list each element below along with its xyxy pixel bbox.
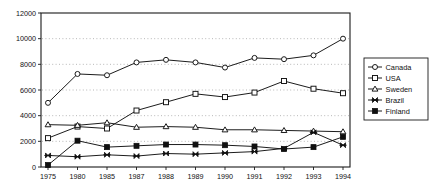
data-point-marker (252, 144, 257, 149)
legend-label: Canada (386, 63, 413, 72)
legend-label: USA (386, 74, 401, 83)
data-point-marker (373, 109, 378, 114)
x-tick-label: 1994 (335, 172, 351, 181)
data-point-marker (105, 145, 110, 150)
data-point-marker (341, 36, 346, 41)
y-tick-label: 12000 (16, 9, 36, 18)
chart-legend: CanadaUSASwedenBrazilFinland (364, 58, 428, 120)
data-point-marker (223, 95, 228, 100)
data-point-marker (223, 143, 228, 148)
data-point-marker (311, 145, 316, 150)
x-tick-label: 1992 (276, 172, 292, 181)
data-point-marker (134, 108, 139, 113)
line-chart-canvas: 020004000600080001000012000 197519801985… (0, 0, 436, 193)
legend-label: Finland (386, 107, 410, 116)
x-tick-label: 1988 (158, 172, 174, 181)
x-tick-label: 1990 (217, 172, 233, 181)
data-point-marker (164, 142, 169, 147)
data-point-marker (46, 136, 51, 141)
data-point-marker (193, 60, 198, 65)
data-point-marker (373, 76, 378, 81)
data-point-marker (164, 100, 169, 105)
data-point-marker (282, 57, 287, 62)
data-point-marker (311, 86, 316, 91)
data-point-marker (105, 73, 110, 78)
data-point-marker (134, 60, 139, 65)
data-point-marker (75, 138, 80, 143)
legend-label: Sweden (386, 85, 413, 94)
y-tick-label: 10000 (16, 34, 36, 43)
x-tick-label: 1980 (70, 172, 86, 181)
y-tick-label: 8000 (20, 60, 36, 69)
data-point-marker (311, 53, 316, 58)
data-point-marker (252, 55, 257, 60)
x-tick-label: 1975 (40, 172, 56, 181)
data-point-marker (282, 147, 287, 152)
data-point-marker (193, 142, 198, 147)
data-point-marker (373, 65, 378, 70)
data-point-marker (75, 71, 80, 76)
data-point-marker (134, 143, 139, 148)
legend-label: Brazil (386, 96, 405, 105)
data-point-marker (282, 79, 287, 84)
data-point-marker (223, 65, 228, 70)
data-point-marker (193, 91, 198, 96)
y-tick-label: 0 (32, 163, 36, 172)
data-point-marker (252, 90, 257, 95)
data-point-marker (341, 91, 346, 96)
y-tick-label: 2000 (20, 137, 36, 146)
data-point-marker (46, 163, 51, 168)
y-tick-label: 6000 (20, 86, 36, 95)
x-tick-label: 1989 (188, 172, 204, 181)
y-tick-label: 4000 (20, 111, 36, 120)
x-tick-label: 1991 (247, 172, 263, 181)
data-point-marker (46, 100, 51, 105)
x-tick-label: 1993 (306, 172, 322, 181)
data-point-marker (341, 134, 346, 139)
x-tick-label: 1985 (99, 172, 115, 181)
x-tick-label: 1987 (129, 172, 145, 181)
data-point-marker (105, 126, 110, 131)
chart-figure: 020004000600080001000012000 197519801985… (0, 0, 436, 193)
data-point-marker (164, 57, 169, 62)
